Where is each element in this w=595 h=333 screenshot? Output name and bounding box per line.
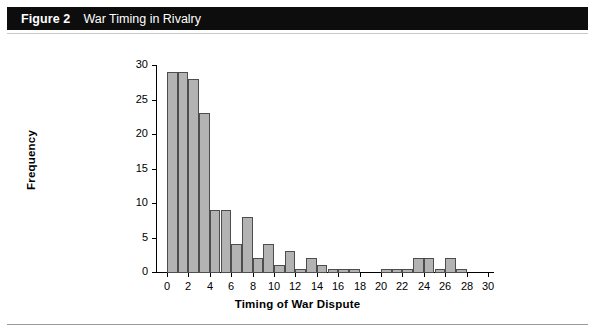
figure-title: War Timing in Rivalry [83,12,201,26]
y-axis-tick [152,272,156,273]
x-axis-tick-label: 6 [221,280,241,292]
x-axis-tick-label: 26 [435,280,455,292]
bar [242,217,253,273]
x-axis-tick-label: 0 [157,280,177,292]
x-axis-tick [424,273,425,277]
figure-caption-bar: Figure 2 War Timing in Rivalry [7,7,588,30]
bar [392,269,403,273]
bar [349,269,360,273]
y-axis-tick [152,169,156,170]
y-axis-tick-label: 15 [126,162,148,174]
x-axis-tick [338,273,339,277]
x-axis-tick [253,273,254,277]
x-axis-tick-label: 12 [285,280,305,292]
bar [306,258,317,273]
x-axis-title: Timing of War Dispute [0,298,595,310]
x-axis-tick-label: 14 [307,280,327,292]
y-axis-tick-label: 30 [126,58,148,70]
bar [338,269,349,273]
bar [253,258,264,273]
bar [263,244,274,273]
divider-bottom [7,324,588,325]
y-axis-tick-label: 10 [126,196,148,208]
x-axis-tick [381,273,382,277]
x-axis-tick [231,273,232,277]
x-axis-tick [210,273,211,277]
bar [188,79,199,273]
y-axis-line [156,65,157,273]
bar [456,269,467,273]
x-axis-tick [188,273,189,277]
x-axis-tick-label: 8 [243,280,263,292]
bar [381,269,392,273]
bar [413,258,424,273]
bar [402,269,413,273]
x-axis-tick-label: 16 [328,280,348,292]
y-axis-tick-label: 20 [126,127,148,139]
bar [285,251,296,273]
y-axis-tick [152,100,156,101]
bar [221,210,232,273]
bar [231,244,242,273]
divider-top [7,33,588,34]
bar [328,269,339,273]
x-axis-tick-label: 10 [264,280,284,292]
bar [445,258,456,273]
bar [274,265,285,273]
x-axis-tick [467,273,468,277]
x-axis-tick [360,273,361,277]
figure-number-label: Figure 2 [21,12,70,26]
y-axis-tick [152,238,156,239]
bar [167,72,178,273]
bar [317,265,328,273]
y-axis-tick [152,203,156,204]
bar [435,269,446,273]
chart-plot-area: Frequency Timing of War Dispute 05101520… [0,36,595,322]
x-axis-tick-label: 2 [178,280,198,292]
x-axis-tick-label: 22 [392,280,412,292]
x-axis-tick [317,273,318,277]
x-axis-tick [167,273,168,277]
y-axis-tick [152,65,156,66]
bar [199,113,210,273]
bar [295,269,306,273]
x-axis-tick [274,273,275,277]
bar [210,210,221,273]
y-axis-title: Frequency [25,105,37,215]
x-axis-tick [488,273,489,277]
y-axis-tick-label: 0 [126,265,148,277]
y-axis-tick-label: 5 [126,231,148,243]
x-axis-tick-label: 24 [414,280,434,292]
x-axis-tick-label: 18 [350,280,370,292]
bar [424,258,435,273]
x-axis-tick [295,273,296,277]
figure-container: Figure 2 War Timing in Rivalry Frequency… [0,0,595,333]
y-axis-tick-label: 25 [126,93,148,105]
x-axis-tick-label: 4 [200,280,220,292]
bar [178,72,189,273]
x-axis-tick-label: 20 [371,280,391,292]
y-axis-tick [152,134,156,135]
x-axis-tick-label: 28 [457,280,477,292]
x-axis-tick [402,273,403,277]
x-axis-tick-label: 30 [478,280,498,292]
x-axis-tick [445,273,446,277]
